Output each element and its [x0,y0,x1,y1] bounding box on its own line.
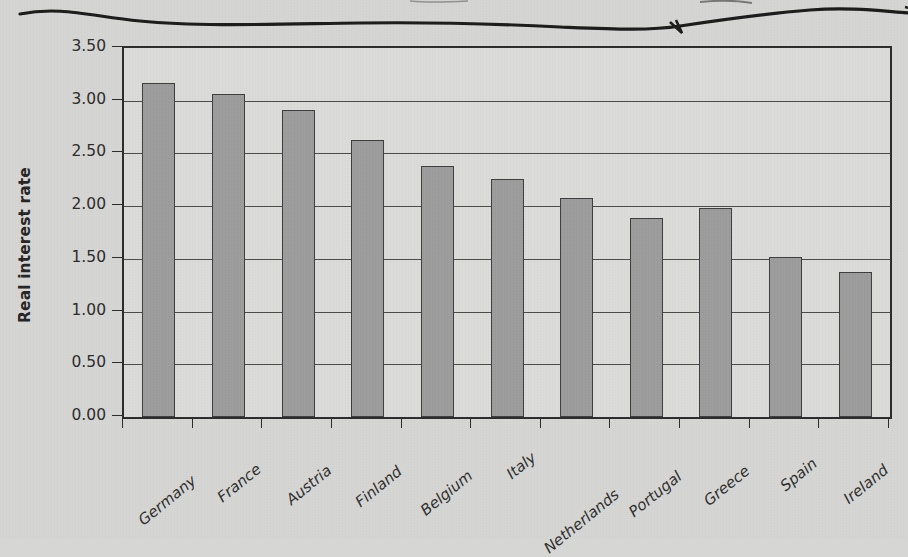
bar [282,110,315,417]
y-axis-tick-mark [112,257,123,258]
y-axis-tick-mark [112,415,123,416]
x-axis-category-label: Italy [503,448,540,482]
x-axis-tick-mark [261,417,262,428]
x-axis-tick-mark [401,417,402,428]
x-axis-tick-mark [818,417,819,428]
y-axis-tick-mark [112,99,123,100]
x-axis-category-label: Belgium [417,467,476,520]
y-axis-tick-mark [112,204,123,205]
bar [769,257,802,417]
y-axis-tick-mark [112,310,123,311]
plot-area [122,46,892,419]
x-axis-tick-mark [470,417,471,428]
x-axis-tick-mark [122,417,123,428]
bar [560,198,593,417]
x-axis-tick-mark [331,417,332,428]
bar [421,166,454,417]
y-axis-tick-mark [112,151,123,152]
bar [351,140,384,417]
x-axis-tick-mark [192,417,193,428]
x-axis-category-label: Greece [700,462,753,510]
x-axis-category-label: Germany [134,472,199,530]
x-axis-tick-mark [609,417,610,428]
x-axis-category-label: Ireland [840,461,892,508]
bar [491,179,524,417]
x-axis-category-labels: GermanyFranceAustriaFinlandBelgiumItalyN… [0,428,908,539]
y-axis-tick-marks [0,46,140,415]
x-axis-tick-mark [679,417,680,428]
x-axis-category-label: Portugal [626,467,686,520]
x-axis-tick-mark [749,417,750,428]
y-axis-tick-mark [112,362,123,363]
x-axis-category-label: Austria [283,461,336,508]
x-axis-category-label: France [214,460,265,506]
bar [699,208,732,417]
bar [839,272,872,417]
x-axis-category-label: Finland [351,462,405,510]
scanned-annotation-strip [0,0,908,34]
x-axis-category-label: Spain [776,454,820,494]
bar [142,83,175,417]
bar [212,94,245,417]
x-axis-tick-mark [540,417,541,428]
x-axis-category-label: Netherlands [540,486,622,557]
x-axis-tick-mark [888,417,889,428]
y-axis-tick-mark [112,46,123,47]
bar [630,218,663,417]
